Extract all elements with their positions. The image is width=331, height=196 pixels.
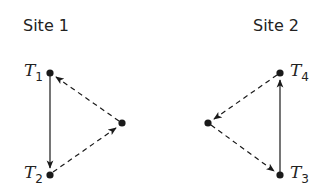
edge-t4-extra2 xyxy=(214,75,277,119)
node-t1 xyxy=(46,69,53,76)
label-t2: T2 xyxy=(24,162,43,186)
edge-t2-extra1 xyxy=(53,128,116,172)
label-t3: T3 xyxy=(290,162,309,186)
edge-extra1-t1 xyxy=(56,77,119,121)
label-t1: T1 xyxy=(24,60,43,84)
edge-extra2-t3 xyxy=(211,125,274,171)
diagram-canvas xyxy=(0,0,331,196)
node-site2-extra xyxy=(204,119,211,126)
node-site1-extra xyxy=(118,119,125,126)
node-t4 xyxy=(276,69,283,76)
node-t2 xyxy=(46,171,53,178)
label-t4: T4 xyxy=(290,60,309,84)
node-t3 xyxy=(276,171,283,178)
